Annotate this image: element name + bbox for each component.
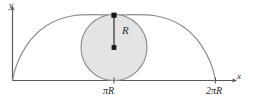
y-axis-label: y — [9, 1, 13, 10]
cycloid-figure: y x πR 2πR R — [0, 0, 260, 103]
circle-center-marker — [112, 45, 117, 50]
radius-label: R — [122, 25, 129, 36]
x-axis-label: x — [237, 72, 241, 81]
radius-top-marker — [111, 13, 116, 18]
tick-label-pi-r: πR — [103, 86, 114, 96]
tick-label-2pi-r: 2πR — [206, 86, 222, 96]
